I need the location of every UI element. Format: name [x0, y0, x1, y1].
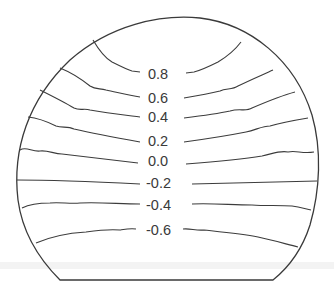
contour-line-0.8-right: [186, 42, 241, 73]
contour-line-neg0.6-left: [36, 229, 136, 243]
contour-diagram: 0.8 0.6 0.4 0.2 0.0 -0.2 -0.4 -0.6: [0, 0, 334, 296]
contour-line-neg0.2-right: [192, 181, 317, 184]
contour-line-neg0.6-right: [183, 229, 298, 247]
contour-label: 0.4: [148, 109, 168, 125]
contour-line-0.0-right: [186, 151, 314, 164]
contour-label: 0.6: [148, 90, 168, 106]
contour-line-0.2-left: [28, 117, 140, 142]
contour-line-0.4-right: [184, 92, 295, 118]
contour-label: -0.4: [146, 197, 171, 213]
contour-line-0.2-right: [184, 118, 308, 142]
contour-label: 0.8: [148, 66, 168, 82]
contour-line-0.6-left: [60, 68, 140, 97]
contour-label: -0.6: [146, 222, 171, 238]
contour-line-neg0.2-left: [17, 180, 140, 184]
contour-line-neg0.4-right: [192, 204, 311, 210]
contour-label: -0.2: [146, 175, 171, 191]
contour-label: 0.2: [148, 133, 168, 149]
contour-figure: 0.8 0.6 0.4 0.2 0.0 -0.2 -0.4 -0.6: [0, 0, 334, 296]
contour-label: 0.0: [148, 153, 168, 169]
contour-line-0.6-right: [184, 70, 273, 98]
contour-line-0.0-left: [20, 149, 138, 163]
contour-line-0.8-left: [93, 40, 140, 72]
contour-line-neg0.4-left: [22, 203, 140, 208]
scan-band: [0, 262, 334, 269]
